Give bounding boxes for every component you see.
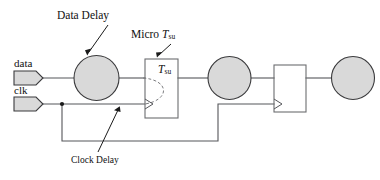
data-delay-circle xyxy=(74,56,119,101)
micro-tsu-leader-head xyxy=(156,52,162,58)
clk-junction-dot xyxy=(60,102,64,106)
clock-delay-leader-head xyxy=(114,106,121,112)
clk-port-label: clk xyxy=(14,85,27,96)
data-delay-leader-line xyxy=(89,25,108,52)
output-delay-circle xyxy=(332,57,375,100)
micro-tsu-prefix: Micro xyxy=(131,28,162,40)
clock-delay-label: Clock Delay xyxy=(71,156,119,166)
tsu-block-label: Tsu xyxy=(158,64,171,76)
mid-delay-circle xyxy=(208,57,251,100)
clk-port-shape xyxy=(14,97,43,111)
data-delay-leader-head xyxy=(85,49,91,56)
diagram-canvas xyxy=(0,0,380,180)
clock-delay-leader-line xyxy=(98,110,118,152)
micro-tsu-label: Micro Tsu xyxy=(131,29,175,41)
data-port-label: data xyxy=(14,58,32,69)
data-port-shape xyxy=(14,71,43,85)
second-flipflop-box xyxy=(274,65,306,112)
tsu-block-subscript: su xyxy=(164,67,171,76)
data-delay-label: Data Delay xyxy=(57,10,109,22)
circuit-diagram: Data Delay Micro Tsu Clock Delay data cl… xyxy=(0,0,380,180)
ff2-clock-triangle xyxy=(274,99,282,109)
clock-delay-wire xyxy=(62,104,274,141)
micro-tsu-subscript: su xyxy=(168,32,175,41)
